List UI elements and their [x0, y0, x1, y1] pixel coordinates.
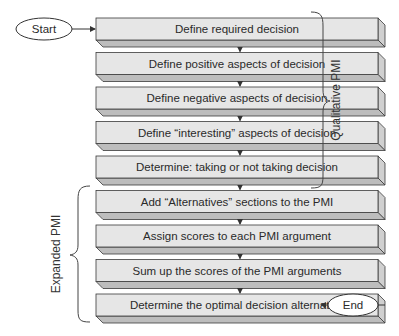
step-label: Determine the optimal decision alternati…	[130, 299, 344, 311]
step-label: Sum up the scores of the PMI arguments	[132, 265, 341, 277]
step-label: Determine: taking or not taking decision	[136, 161, 338, 173]
qualitative-pmi-label: Qualitative PMI	[329, 59, 343, 140]
step-label: Assign scores to each PMI argument	[143, 230, 332, 242]
step-label: Define “interesting” aspects of decision	[138, 127, 336, 139]
step-box: Determine: taking or not taking decision	[96, 156, 385, 185]
step-box: Define required decision	[96, 18, 385, 47]
step-label: Add “Alternatives” sections to the PMI	[141, 196, 333, 208]
step-label: Define required decision	[175, 23, 299, 35]
step-label: Define positive aspects of decision	[149, 58, 325, 70]
step-box: Assign scores to each PMI argument	[96, 225, 385, 254]
step-box: Sum up the scores of the PMI arguments	[96, 260, 385, 289]
step-box: Add “Alternatives” sections to the PMI	[96, 191, 385, 220]
start-label: Start	[32, 23, 57, 35]
start-terminal: Start	[16, 18, 72, 40]
expanded-pmi-brace: Expanded PMI	[49, 186, 90, 322]
end-terminal: End	[328, 294, 378, 316]
step-label: Define negative aspects of decision	[147, 92, 328, 104]
expanded-pmi-label: Expanded PMI	[49, 215, 63, 294]
flowchart-canvas: Start Define required decisionDefine pos…	[0, 0, 399, 336]
end-label: End	[343, 299, 363, 311]
